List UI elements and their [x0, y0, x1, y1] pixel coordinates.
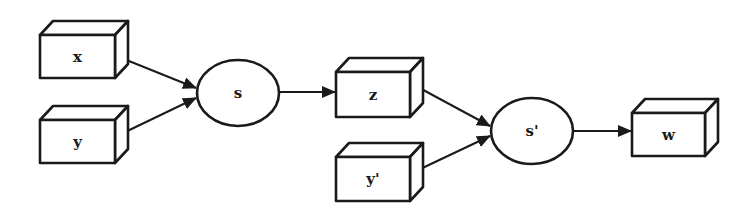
node-label: y [72, 133, 83, 151]
node-label: s [234, 84, 242, 102]
node-label: w [661, 126, 676, 144]
edge-x-to-s [119, 57, 196, 88]
node-y-prime[interactable]: y' [336, 143, 423, 201]
node-label: x [73, 48, 83, 66]
node-label: y' [365, 170, 379, 188]
node-label: z [369, 86, 378, 104]
node-label: s' [525, 122, 538, 140]
diagram-canvas: xyszy's'w [0, 0, 755, 211]
node-w[interactable]: w [632, 99, 718, 156]
box-top-face [336, 58, 423, 72]
edge-y2-to-s2 [414, 136, 490, 172]
node-s-prime[interactable]: s' [491, 98, 573, 164]
node-z[interactable]: z [336, 58, 423, 117]
box-top-face [336, 143, 423, 157]
box-top-face [40, 21, 128, 35]
edge-y-to-s [119, 98, 196, 135]
node-y[interactable]: y [40, 106, 128, 163]
edge-z-to-s2 [414, 85, 490, 126]
nodes-layer: xyszy's'w [40, 21, 718, 201]
node-x[interactable]: x [40, 21, 128, 78]
node-s[interactable]: s [197, 60, 279, 126]
box-top-face [40, 106, 128, 120]
box-top-face [632, 99, 718, 113]
